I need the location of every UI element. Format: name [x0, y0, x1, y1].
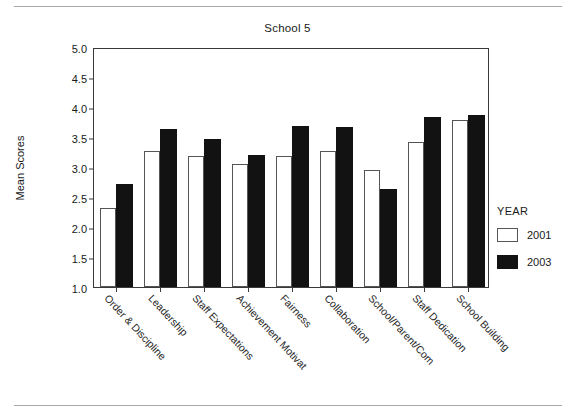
plot-area: 5.04.54.03.53.02.52.01.51.0	[93, 48, 489, 288]
bar-group	[138, 49, 182, 287]
y-axis-tick-label: 5.0	[47, 43, 94, 55]
legend-item-2001[interactable]: 2001	[497, 228, 569, 242]
y-axis-title: Mean Scores	[14, 108, 26, 228]
bar-2003[interactable]	[424, 117, 441, 287]
bar-2003[interactable]	[116, 184, 133, 287]
bar-2001[interactable]	[100, 208, 117, 287]
x-axis-labels: Order & DisciplineLeadershipStaff Expect…	[93, 290, 489, 400]
y-axis-tick-label: 1.5	[47, 253, 94, 265]
bar-group	[358, 49, 402, 287]
black-square-icon	[497, 255, 518, 269]
y-axis-tick-label: 2.5	[47, 193, 94, 205]
bar-2003[interactable]	[160, 129, 177, 287]
bar-2003[interactable]	[204, 139, 221, 287]
bar-2001[interactable]	[276, 156, 293, 287]
bar-2001[interactable]	[188, 156, 205, 287]
bar-group	[182, 49, 226, 287]
bar-2003[interactable]	[468, 115, 485, 287]
bar-group	[270, 49, 314, 287]
y-axis-tick-label: 4.0	[47, 103, 94, 115]
bar-2001[interactable]	[408, 142, 425, 287]
bar-2001[interactable]	[144, 151, 161, 287]
white-square-icon	[497, 228, 518, 242]
y-axis-tick-label: 1.0	[47, 283, 94, 295]
legend-label: 2003	[527, 256, 551, 268]
y-axis-tick-label: 3.0	[47, 163, 94, 175]
legend-title: YEAR	[497, 205, 569, 217]
y-axis-tick-label: 2.0	[47, 223, 94, 235]
bar-2001[interactable]	[320, 151, 337, 287]
bar-2003[interactable]	[380, 189, 397, 287]
x-axis-label: Leadership	[146, 292, 190, 338]
legend-label: 2001	[527, 229, 551, 241]
legend: YEAR 2001 2003	[497, 205, 569, 282]
bar-series-layer	[94, 49, 488, 287]
bar-2001[interactable]	[452, 120, 469, 287]
legend-item-2003[interactable]: 2003	[497, 255, 569, 269]
page-rule-top	[14, 6, 562, 7]
page-rule-bottom	[14, 405, 562, 406]
bar-2003[interactable]	[292, 126, 309, 287]
bar-group	[94, 49, 138, 287]
bar-group	[314, 49, 358, 287]
y-axis-title-wrap: Mean Scores	[22, 48, 42, 288]
bar-2003[interactable]	[248, 155, 265, 287]
bar-group	[446, 49, 490, 287]
bar-2001[interactable]	[364, 170, 381, 287]
chart-title: School 5	[0, 22, 575, 34]
x-axis-label: Fairness	[278, 292, 314, 330]
y-axis-tick-label: 4.5	[47, 73, 94, 85]
bar-2001[interactable]	[232, 164, 249, 287]
y-axis-tick-label: 3.5	[47, 133, 94, 145]
bar-group	[402, 49, 446, 287]
bar-group	[226, 49, 270, 287]
chart-page: School 5 Mean Scores 5.04.54.03.53.02.52…	[0, 0, 575, 420]
bar-2003[interactable]	[336, 127, 353, 287]
